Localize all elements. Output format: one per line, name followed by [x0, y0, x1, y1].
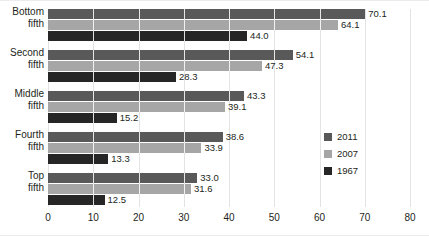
gridline-overlay: [139, 91, 140, 101]
bar[interactable]: [48, 91, 244, 101]
chart-legend: 201120071967: [324, 129, 394, 180]
bar-row: 44.0: [48, 31, 410, 41]
category-label-line: Top: [0, 170, 44, 182]
gridline-overlay: [229, 50, 230, 60]
bar[interactable]: [48, 154, 108, 164]
legend-item[interactable]: 2011: [324, 129, 394, 144]
bar-row: 12.5: [48, 195, 410, 205]
category-label: Secondfifth: [0, 47, 44, 71]
gridline-overlay: [93, 9, 94, 19]
legend-item[interactable]: 2007: [324, 146, 394, 161]
category-label: Middlefifth: [0, 88, 44, 112]
bar-chart: BottomfifthSecondfifthMiddlefifthFourthf…: [0, 0, 429, 236]
bar-group: 43.339.115.2: [48, 91, 410, 125]
bar[interactable]: [48, 173, 197, 183]
bar-value-label: 15.2: [120, 111, 139, 124]
x-axis-tick-label: 50: [269, 211, 280, 225]
gridline-overlay: [274, 20, 275, 30]
gridline-overlay: [139, 50, 140, 60]
legend-swatch-icon: [324, 167, 332, 175]
bar[interactable]: [48, 113, 117, 123]
category-label-line: fifth: [0, 182, 44, 194]
gridline-overlay: [139, 61, 140, 71]
bar-value-label: 39.1: [228, 100, 247, 113]
x-axis-tick-label: 20: [133, 211, 144, 225]
gridline-overlay: [139, 173, 140, 183]
gridline-80: [410, 9, 411, 207]
category-label-line: Fourth: [0, 129, 44, 141]
category-label-line: fifth: [0, 18, 44, 30]
x-axis-tick-label: 80: [404, 211, 415, 225]
bar-value-label: 44.0: [250, 29, 269, 42]
gridline-overlay: [93, 91, 94, 101]
gridline-overlay: [139, 72, 140, 82]
legend-label: 1967: [337, 165, 358, 177]
gridline-overlay: [93, 195, 94, 205]
gridline-overlay: [184, 143, 185, 153]
gridline-overlay: [139, 102, 140, 112]
gridline-overlay: [320, 20, 321, 30]
bar[interactable]: [48, 50, 293, 60]
gridline-overlay: [93, 50, 94, 60]
category-label-line: Bottom: [0, 6, 44, 18]
gridline-overlay: [139, 132, 140, 142]
bar-row: 64.1: [48, 20, 410, 30]
bar-value-label: 13.3: [111, 152, 130, 165]
x-axis-tick-label: 70: [359, 211, 370, 225]
x-axis-tick-label: 10: [88, 211, 99, 225]
gridline-overlay: [184, 91, 185, 101]
gridline-overlay: [139, 20, 140, 30]
gridline-overlay: [93, 184, 94, 194]
bar-row: 54.1: [48, 50, 410, 60]
gridline-overlay: [320, 9, 321, 19]
gridline-overlay: [184, 20, 185, 30]
bar-group: 54.147.328.3: [48, 50, 410, 84]
gridline-overlay: [93, 72, 94, 82]
x-axis-tick-label: 0: [45, 211, 51, 225]
category-label-line: fifth: [0, 141, 44, 153]
legend-item[interactable]: 1967: [324, 163, 394, 178]
bar[interactable]: [48, 72, 176, 82]
category-label-line: Middle: [0, 88, 44, 100]
legend-swatch-icon: [324, 133, 332, 141]
category-label: Topfifth: [0, 170, 44, 194]
bar-value-label: 38.6: [226, 130, 245, 143]
bar-value-label: 70.1: [368, 7, 387, 20]
gridline-overlay: [184, 9, 185, 19]
gridline-overlay: [184, 184, 185, 194]
bar-row: 39.1: [48, 102, 410, 112]
category-label: Bottomfifth: [0, 6, 44, 30]
bar[interactable]: [48, 195, 105, 205]
bar-value-label: 47.3: [265, 59, 284, 72]
bar-row: 47.3: [48, 61, 410, 71]
category-label-line: fifth: [0, 100, 44, 112]
gridline-overlay: [93, 113, 94, 123]
gridline-overlay: [229, 20, 230, 30]
bar[interactable]: [48, 31, 247, 41]
gridline-overlay: [184, 102, 185, 112]
bar-row: 28.3: [48, 72, 410, 82]
gridline-overlay: [229, 31, 230, 41]
gridline-overlay: [93, 154, 94, 164]
gridline-overlay: [93, 173, 94, 183]
gridline-overlay: [93, 20, 94, 30]
bar[interactable]: [48, 9, 365, 19]
gridline-overlay: [229, 61, 230, 71]
x-axis-tick-label: 40: [223, 211, 234, 225]
x-axis-tick-label: 60: [314, 211, 325, 225]
gridline-overlay: [93, 102, 94, 112]
category-label-line: Second: [0, 47, 44, 59]
gridline-overlay: [139, 31, 140, 41]
bar[interactable]: [48, 20, 338, 30]
category-label-line: fifth: [0, 59, 44, 71]
bar-value-label: 64.1: [341, 18, 360, 31]
bar-value-label: 12.5: [108, 193, 127, 206]
x-axis-tick-label: 30: [178, 211, 189, 225]
gridline-overlay: [229, 9, 230, 19]
category-axis-labels: BottomfifthSecondfifthMiddlefifthFourthf…: [0, 9, 44, 207]
bar[interactable]: [48, 132, 223, 142]
bar-value-label: 28.3: [179, 70, 198, 83]
gridline-overlay: [274, 9, 275, 19]
bar-group: 70.164.144.0: [48, 9, 410, 43]
gridline-overlay: [93, 143, 94, 153]
